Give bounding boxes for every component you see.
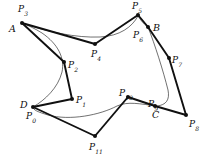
control-point-label-P4: P4 [91, 50, 101, 61]
control-polygon-segment-P11-P0 [33, 107, 95, 136]
control-polygon [22, 15, 186, 136]
control-point-marker-P0[interactable] [31, 105, 35, 109]
knot-point-label-C: C [152, 110, 159, 120]
figure-canvas [0, 0, 205, 159]
control-polygon-segment-P8-P9 [155, 106, 186, 115]
control-point-label-subscript: 1 [82, 101, 86, 108]
control-point-marker-P11[interactable] [93, 134, 97, 138]
control-point-markers [20, 13, 188, 138]
control-point-label-P10: P10 [119, 89, 133, 100]
control-point-marker-P1[interactable] [70, 97, 74, 101]
spline-figure: P0P1P2P3P4P5P6P7P8P9P10P11ABCD [0, 0, 205, 159]
control-point-marker-P7[interactable] [167, 56, 171, 60]
control-point-label-subscript: 11 [95, 148, 103, 155]
control-polygon-segment-P10-P11 [95, 97, 128, 136]
control-point-label-subscript: 2 [74, 66, 78, 73]
control-point-marker-P4[interactable] [93, 42, 97, 46]
control-point-label-P2: P2 [68, 61, 78, 72]
control-point-label-P7: P7 [172, 56, 182, 67]
control-point-marker-P3[interactable] [20, 21, 24, 25]
control-point-label-P11: P11 [89, 143, 103, 154]
knot-point-label-A: A [9, 24, 16, 34]
control-point-marker-P6[interactable] [146, 25, 150, 29]
control-point-label-P3: P3 [18, 5, 28, 16]
control-point-label-subscript: 8 [195, 125, 199, 132]
control-point-label-subscript: 10 [125, 94, 133, 101]
control-point-label-subscript: 5 [138, 7, 142, 14]
control-point-label-P1: P1 [76, 96, 86, 107]
control-point-label-subscript: 4 [97, 55, 101, 62]
knot-point-label-B: B [153, 23, 160, 33]
control-point-label-subscript: 6 [139, 36, 143, 43]
knot-point-label-D: D [20, 100, 28, 110]
control-polygon-segment-P5-P6 [138, 15, 148, 27]
control-point-label-P8: P8 [189, 120, 199, 131]
control-point-marker-P8[interactable] [184, 113, 188, 117]
control-point-label-subscript: 7 [178, 61, 182, 68]
control-point-label-subscript: 3 [24, 10, 28, 17]
control-point-label-P0: P0 [26, 112, 36, 123]
control-point-label-subscript: 0 [32, 117, 36, 124]
control-point-label-P5: P5 [132, 2, 142, 13]
control-point-label-P6: P6 [133, 31, 143, 42]
control-polygon-segment-P4-P5 [95, 15, 138, 44]
control-point-marker-P2[interactable] [62, 60, 66, 64]
